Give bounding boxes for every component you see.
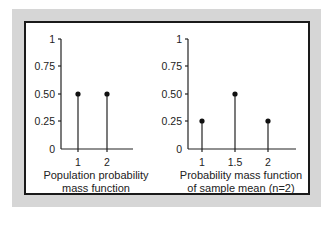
svg-text:0: 0	[49, 143, 55, 155]
svg-text:0.75: 0.75	[35, 60, 56, 72]
svg-text:1: 1	[75, 156, 81, 168]
left-chart-caption: Population probability mass function	[40, 169, 152, 195]
svg-text:0.25: 0.25	[162, 115, 183, 127]
right-x-tick-labels: 1 1.5 2	[199, 156, 271, 168]
right-chart-caption: Probability mass function of sample mean…	[176, 169, 306, 195]
stem-marker	[265, 118, 270, 123]
caption-line: Population probability	[40, 169, 152, 182]
stem-marker	[104, 91, 109, 96]
stem-marker	[75, 91, 80, 96]
svg-text:0.50: 0.50	[162, 88, 183, 100]
svg-text:1: 1	[49, 33, 55, 45]
chart-sample-mean-pmf	[185, 39, 296, 152]
right-y-tick-labels: 1 0.75 0.50 0.25 0	[162, 33, 183, 155]
svg-text:0.25: 0.25	[35, 115, 56, 127]
svg-text:0.50: 0.50	[35, 88, 56, 100]
caption-line: of sample mean (n=2)	[176, 182, 306, 195]
svg-text:1: 1	[199, 156, 205, 168]
stem-marker	[199, 118, 204, 123]
left-x-tick-labels: 1 2	[75, 156, 110, 168]
svg-text:0.75: 0.75	[162, 60, 183, 72]
chart-population-pmf	[58, 39, 133, 152]
caption-line: Probability mass function	[176, 169, 306, 182]
svg-text:2: 2	[265, 156, 271, 168]
left-y-tick-labels: 1 0.75 0.50 0.25 0	[35, 33, 56, 155]
stem-marker	[232, 91, 237, 96]
caption-line: mass function	[40, 182, 152, 195]
svg-text:2: 2	[104, 156, 110, 168]
svg-text:1: 1	[176, 33, 182, 45]
svg-text:0: 0	[176, 143, 182, 155]
svg-text:1.5: 1.5	[228, 156, 243, 168]
